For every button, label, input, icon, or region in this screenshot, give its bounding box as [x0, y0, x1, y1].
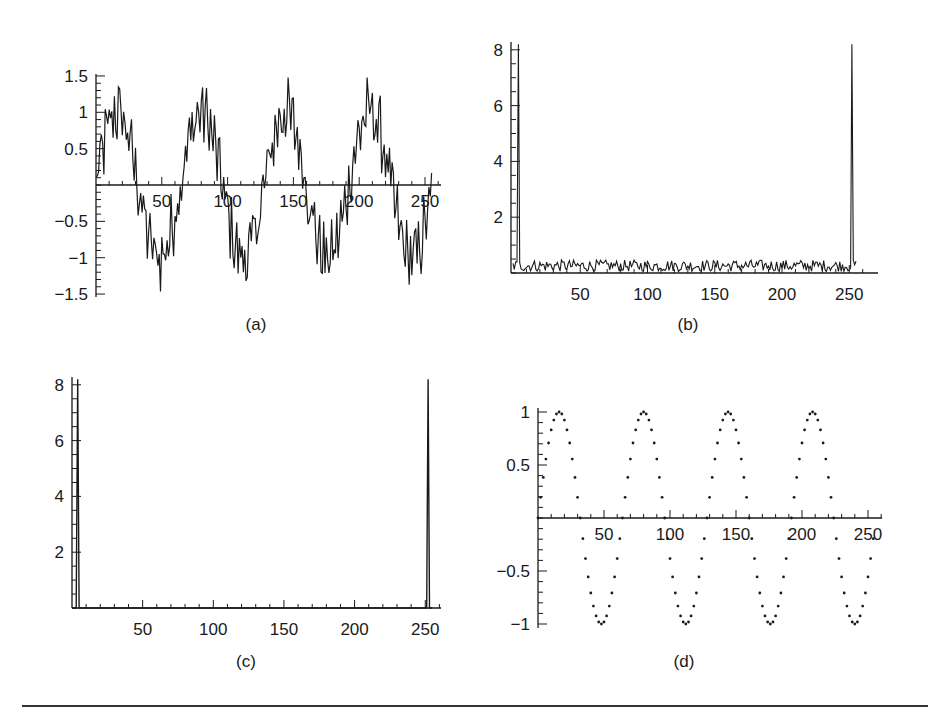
y-tick-label: 1.5 [64, 67, 88, 86]
y-tick-label: 0.5 [64, 140, 88, 159]
caption-b: (b) [678, 315, 699, 334]
y-tick-label: 4 [494, 152, 503, 171]
data-point [690, 615, 693, 618]
data-point [848, 615, 851, 618]
data-point [769, 623, 772, 626]
data-point [719, 429, 722, 432]
data-point [542, 476, 545, 479]
data-point [861, 605, 864, 608]
data-point [864, 592, 867, 595]
x-tick-label: 200 [768, 285, 796, 304]
data-point [790, 517, 793, 520]
data-point [806, 419, 809, 422]
data-point [766, 621, 769, 624]
data-point [584, 557, 587, 560]
figure-bottom-rule [22, 705, 928, 707]
data-point [735, 429, 738, 432]
data-point [616, 557, 619, 560]
data-point [576, 496, 579, 499]
data-point [655, 458, 658, 461]
data-point [700, 557, 703, 560]
data-point [859, 615, 862, 618]
data-point [869, 557, 872, 560]
data-point [563, 419, 566, 422]
data-point [798, 458, 801, 461]
y-tick-label: 6 [494, 97, 503, 116]
data-point [600, 623, 603, 626]
x-tick-label: 100 [656, 525, 684, 544]
y-tick-label: 1 [79, 103, 88, 122]
x-tick-label: 100 [199, 620, 227, 639]
data-point [592, 605, 595, 608]
x-tick-label: 50 [595, 525, 614, 544]
y-tick-label: −1 [69, 249, 88, 268]
data-point [555, 413, 558, 416]
data-point [819, 429, 822, 432]
x-tick-label: 50 [152, 192, 171, 211]
data-point [753, 557, 756, 560]
data-point [698, 576, 701, 579]
data-point [574, 476, 577, 479]
caption-c: (c) [236, 652, 256, 671]
data-point [803, 429, 806, 432]
data-point [743, 476, 746, 479]
y-tick-label: 8 [494, 41, 503, 60]
data-point [711, 476, 714, 479]
data-point [674, 592, 677, 595]
y-tick-label: 0.5 [506, 456, 530, 475]
data-point [761, 605, 764, 608]
data-point [740, 458, 743, 461]
data-point [824, 458, 827, 461]
data-point [846, 605, 849, 608]
y-tick-label: 8 [55, 376, 64, 395]
data-point [613, 576, 616, 579]
y-tick-label: −1.5 [54, 285, 88, 304]
data-point [853, 623, 856, 626]
data-point [603, 621, 606, 624]
y-tick-label: 2 [55, 543, 64, 562]
data-point [716, 442, 719, 445]
data-point [666, 537, 669, 540]
data-point [597, 621, 600, 624]
y-tick-label: −0.5 [496, 562, 530, 581]
data-point [611, 592, 614, 595]
data-point [780, 592, 783, 595]
data-point [687, 621, 690, 624]
caption-d: (d) [674, 652, 695, 671]
data-point [545, 458, 548, 461]
data-point [748, 517, 751, 520]
data-point [706, 517, 709, 520]
data-point [624, 496, 627, 499]
data-point [632, 442, 635, 445]
series-filtered-spectrum [72, 379, 432, 608]
chart-panel-c: 501001502002502468 [55, 376, 441, 639]
data-point [721, 419, 724, 422]
y-tick-label: 1 [521, 403, 530, 422]
data-point [640, 413, 643, 416]
data-point [605, 615, 608, 618]
data-point [714, 458, 717, 461]
data-point [787, 537, 790, 540]
figure-canvas: 50100150200250−1.5−1−0.50.511.5 50100150… [0, 0, 928, 714]
series-spectrum [513, 44, 856, 271]
data-point [682, 621, 685, 624]
data-point [695, 592, 698, 595]
y-tick-label: −1 [511, 615, 530, 634]
x-tick-label: 250 [835, 285, 863, 304]
data-point [856, 621, 859, 624]
data-point [777, 605, 780, 608]
data-point [737, 442, 740, 445]
data-point [801, 442, 804, 445]
data-point [629, 458, 632, 461]
data-point [750, 537, 753, 540]
data-point [727, 411, 730, 414]
chart-panel-d: 50100150200250−1−0.50.51 [496, 403, 882, 634]
x-tick-label: 150 [722, 525, 750, 544]
data-point [547, 442, 550, 445]
x-tick-label: 200 [788, 525, 816, 544]
data-point [816, 419, 819, 422]
data-point [589, 592, 592, 595]
data-point [645, 413, 648, 416]
y-tick-label: 4 [55, 487, 64, 506]
data-point [872, 537, 875, 540]
